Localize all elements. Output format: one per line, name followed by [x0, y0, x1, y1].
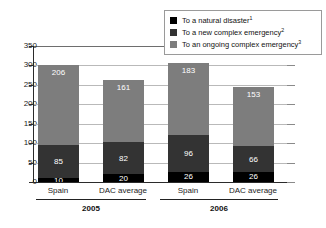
group-rule-2005 [36, 199, 146, 200]
y-tick-right-0 [287, 182, 295, 183]
bar-segment-natural-dac-average-2006: 26 [233, 172, 274, 182]
bar-segment-new-dac-average-2006: 66 [233, 146, 274, 172]
bar-dac-average-2006: 1536626 [233, 87, 274, 182]
bar-segment-new-spain-2005: 85 [38, 145, 79, 178]
legend-item-ongoing-complex-emergency: To an ongoing complex emergency3 [170, 39, 316, 50]
legend-label-natural-disaster: To a natural disaster1 [182, 16, 252, 25]
legend-item-natural-disaster: To a natural disaster1 [170, 15, 316, 26]
y-tick-right-150 [287, 124, 295, 125]
category-label-dac-average-2006: DAC average [223, 186, 283, 195]
y-tick-250 [29, 85, 34, 86]
category-label-spain-2006: Spain [158, 186, 218, 195]
y-tick-350 [29, 46, 34, 47]
bar-segment-new-spain-2006: 96 [168, 135, 209, 172]
bar-value-natural-spain-2005: 10 [54, 178, 63, 182]
category-label-dac-average-2005: DAC average [93, 186, 153, 195]
bar-value-natural-dac-average-2006: 26 [249, 172, 258, 181]
bar-value-new-spain-2006: 96 [184, 149, 193, 158]
y-tick-right-100 [287, 143, 295, 144]
bar-segment-ongoing-spain-2006: 183 [168, 63, 209, 134]
bar-dac-average-2005: 1618220 [103, 80, 144, 182]
group-label-2006: 2006 [160, 204, 278, 213]
bar-value-new-spain-2005: 85 [54, 157, 63, 166]
y-tick-right-250 [287, 85, 295, 86]
bar-value-ongoing-dac-average-2005: 161 [117, 83, 131, 92]
y-tick-150 [29, 124, 34, 125]
bar-value-natural-spain-2006: 26 [184, 172, 193, 181]
bar-segment-natural-spain-2005: 10 [38, 178, 79, 182]
legend-sup-natural-disaster: 1 [250, 15, 253, 21]
bar-spain-2005: 2068510 [38, 65, 79, 182]
category-label-spain-2005: Spain [28, 186, 88, 195]
legend-sup-ongoing-complex-emergency: 3 [298, 39, 301, 45]
bar-segment-ongoing-dac-average-2006: 153 [233, 87, 274, 146]
group-rule-2006 [160, 199, 278, 200]
bar-value-natural-dac-average-2005: 20 [119, 174, 128, 182]
bar-spain-2006: 1839626 [168, 63, 209, 182]
bar-segment-ongoing-spain-2005: 206 [38, 65, 79, 145]
bar-value-ongoing-spain-2005: 206 [52, 68, 66, 77]
legend-swatch-ongoing-complex-emergency [170, 41, 177, 48]
group-label-2005: 2005 [36, 204, 146, 213]
stacked-bar-chart: To a natural disaster1 To a new complex … [0, 0, 326, 228]
y-tick-0 [29, 182, 34, 183]
legend-text-ongoing-complex-emergency: To an ongoing complex emergency [182, 40, 298, 49]
bar-segment-natural-spain-2006: 26 [168, 172, 209, 182]
legend-item-new-complex-emergency: To a new complex emergency2 [170, 27, 316, 38]
y-tick-right-50 [287, 163, 295, 164]
bar-segment-ongoing-dac-average-2005: 161 [103, 80, 144, 143]
bar-segment-natural-dac-average-2005: 20 [103, 174, 144, 182]
x-axis-line [33, 182, 289, 183]
y-tick-300 [29, 65, 34, 66]
chart-legend: To a natural disaster1 To a new complex … [164, 10, 322, 55]
legend-text-new-complex-emergency: To a new complex emergency [182, 28, 281, 37]
legend-swatch-natural-disaster [170, 17, 177, 24]
legend-text-natural-disaster: To a natural disaster [182, 16, 250, 25]
y-tick-right-300 [287, 65, 295, 66]
legend-sup-new-complex-emergency: 2 [281, 27, 284, 33]
legend-swatch-new-complex-emergency [170, 29, 177, 36]
y-tick-100 [29, 143, 34, 144]
bar-value-ongoing-spain-2006: 183 [182, 66, 196, 75]
y-tick-50 [29, 163, 34, 164]
legend-label-ongoing-complex-emergency: To an ongoing complex emergency3 [182, 40, 301, 49]
bar-value-new-dac-average-2005: 82 [119, 154, 128, 163]
bar-value-ongoing-dac-average-2006: 153 [247, 90, 261, 99]
y-tick-right-200 [287, 104, 295, 105]
legend-label-new-complex-emergency: To a new complex emergency2 [182, 28, 284, 37]
bar-value-new-dac-average-2006: 66 [249, 155, 258, 164]
bar-segment-new-dac-average-2005: 82 [103, 142, 144, 174]
y-tick-200 [29, 104, 34, 105]
